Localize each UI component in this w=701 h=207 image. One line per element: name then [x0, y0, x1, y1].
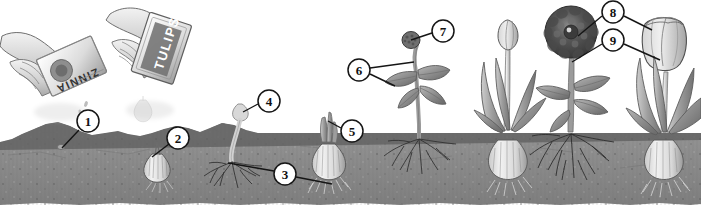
illustration-canvas: ZINNIA TULIPS: [0, 0, 701, 207]
callout-4-label: 4: [266, 94, 273, 109]
callout-9-label: 9: [610, 33, 617, 48]
callout-7-label: 7: [440, 24, 447, 39]
callout-2-label: 2: [175, 131, 182, 146]
callout-7[interactable]: 7: [432, 20, 454, 42]
growth-stages-diagram: ZINNIA TULIPS: [0, 0, 701, 207]
callout-6-label: 6: [356, 63, 363, 78]
callout-1-label: 1: [85, 114, 92, 129]
callout-1[interactable]: 1: [77, 110, 99, 132]
callout-8[interactable]: 8: [602, 1, 624, 23]
callout-3-label: 3: [282, 167, 289, 182]
tulip-flower: [642, 17, 686, 70]
callout-6[interactable]: 6: [348, 59, 370, 81]
callout-8-label: 8: [610, 5, 617, 20]
callout-3[interactable]: 3: [274, 163, 296, 185]
callout-2[interactable]: 2: [167, 127, 189, 149]
callout-9[interactable]: 9: [602, 29, 624, 51]
callout-5[interactable]: 5: [341, 120, 363, 142]
callout-5-label: 5: [349, 124, 356, 139]
callout-4[interactable]: 4: [258, 90, 280, 112]
